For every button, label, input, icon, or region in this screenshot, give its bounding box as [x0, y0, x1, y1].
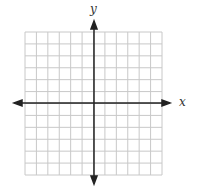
y-axis-top-arrow-icon [91, 21, 97, 29]
x-axis [14, 100, 170, 106]
x-axis-left-arrow-icon [14, 100, 22, 106]
y-axis-label: y [90, 2, 97, 16]
y-axis-bottom-arrow-icon [91, 176, 97, 184]
x-axis-right-arrow-icon [162, 100, 170, 106]
coordinate-plane [0, 0, 197, 192]
x-axis-label: x [179, 95, 186, 109]
